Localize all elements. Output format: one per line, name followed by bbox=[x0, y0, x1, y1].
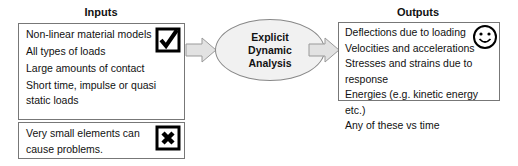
arrow-right-icon bbox=[308, 36, 340, 64]
process-line: Analysis bbox=[248, 57, 292, 70]
outputs-title: Outputs bbox=[338, 6, 498, 18]
checkbox-checked-icon bbox=[155, 27, 181, 53]
inputs-title: Inputs bbox=[18, 6, 184, 18]
process-line: Explicit bbox=[248, 31, 292, 44]
input-item: Short time, impulse or quasi static load… bbox=[26, 78, 176, 108]
checkbox-x-icon bbox=[155, 125, 181, 151]
process-line: Dynamic bbox=[248, 44, 292, 57]
output-item: Energies (e.g. kinetic energy etc.) bbox=[345, 87, 499, 118]
arrow-right-icon bbox=[185, 36, 217, 64]
input-item: Large amounts of contact bbox=[26, 60, 184, 77]
smiley-icon bbox=[472, 24, 498, 50]
limitation-text: Very small elements can cause problems. bbox=[26, 125, 154, 157]
output-item: Stresses and strains due to response bbox=[345, 56, 499, 87]
output-item: Any of these vs time bbox=[345, 118, 499, 134]
